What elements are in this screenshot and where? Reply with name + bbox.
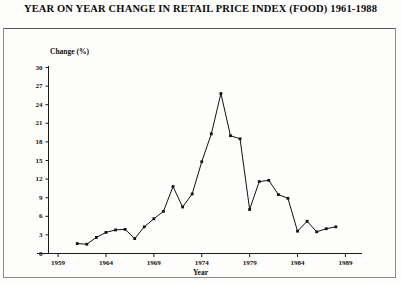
data-point-marker — [76, 242, 79, 245]
x-tick-label: 1979 — [230, 259, 270, 267]
data-point-marker — [258, 180, 261, 183]
data-point-marker — [143, 225, 146, 228]
x-tick-label: 1964 — [86, 259, 126, 267]
data-point-marker — [220, 92, 223, 95]
y-tick-label: 9 — [23, 194, 43, 202]
data-point-marker — [248, 208, 251, 211]
data-point-marker — [306, 220, 309, 223]
data-point-marker — [287, 197, 290, 200]
y-tick-label: 6 — [23, 212, 43, 220]
data-point-marker — [325, 227, 328, 230]
y-tick-label: 12 — [23, 175, 43, 183]
data-point-marker — [200, 160, 203, 163]
data-point-marker — [296, 230, 299, 233]
x-tick-label: 1984 — [278, 259, 318, 267]
x-axis-ticks — [58, 254, 345, 258]
line-chart — [0, 0, 401, 284]
y-tick-label: 18 — [23, 138, 43, 146]
y-tick-label: 30 — [23, 64, 43, 72]
y-tick-label: 0 — [23, 250, 43, 258]
data-point-marker — [85, 243, 88, 246]
data-point-marker — [105, 231, 108, 234]
x-tick-label: 1959 — [38, 259, 78, 267]
data-point-marker — [162, 210, 165, 213]
data-point-marker — [152, 217, 155, 220]
data-point-marker — [181, 206, 184, 209]
axis-lines — [37, 66, 362, 254]
y-tick-label: 15 — [23, 157, 43, 165]
data-point-marker — [172, 185, 175, 188]
x-tick-label: 1989 — [325, 259, 365, 267]
data-point-marker — [334, 225, 337, 228]
data-point-marker — [210, 132, 213, 135]
data-point-marker — [267, 179, 270, 182]
data-point-marker — [239, 137, 242, 140]
data-point-markers — [76, 92, 337, 245]
y-tick-label: 27 — [23, 82, 43, 90]
x-tick-label: 1969 — [134, 259, 174, 267]
data-point-marker — [133, 237, 136, 240]
data-point-marker — [315, 230, 318, 233]
y-tick-label: 24 — [23, 101, 43, 109]
y-tick-label: 21 — [23, 119, 43, 127]
data-point-marker — [114, 229, 117, 232]
data-point-marker — [95, 236, 98, 239]
data-point-marker — [191, 193, 194, 196]
data-point-marker — [124, 228, 127, 231]
y-tick-label: 3 — [23, 231, 43, 239]
data-point-marker — [277, 193, 280, 196]
data-series-line — [77, 94, 336, 245]
x-tick-label: 1974 — [182, 259, 222, 267]
data-point-marker — [229, 134, 232, 137]
